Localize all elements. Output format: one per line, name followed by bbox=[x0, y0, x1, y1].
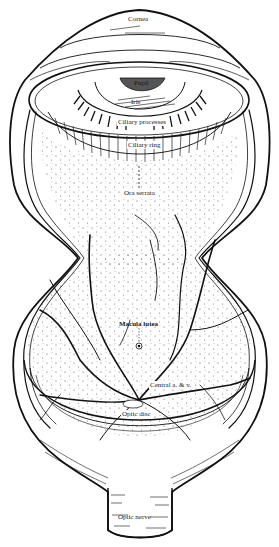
label-pupil: Pupil bbox=[133, 79, 150, 87]
label-cornea: Cornea bbox=[127, 15, 149, 23]
label-optic-disc: Optic disc bbox=[121, 410, 152, 418]
label-ora-serrata: Ora serrata bbox=[123, 189, 156, 197]
sclera-base-hatching bbox=[40, 440, 239, 484]
label-macula-lutea: Macula lutea bbox=[118, 320, 159, 328]
label-central-vessels: Central a. & v. bbox=[149, 381, 192, 389]
label-ciliary-ring: Ciliary ring bbox=[127, 141, 161, 149]
label-iris: Iris bbox=[130, 98, 141, 106]
optic-disc bbox=[123, 400, 143, 408]
label-ciliary-processes: Ciliary processes bbox=[117, 118, 167, 126]
label-optic-nerve: Optic nerve bbox=[117, 513, 152, 521]
